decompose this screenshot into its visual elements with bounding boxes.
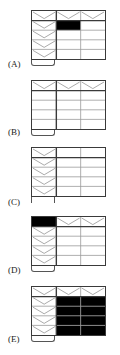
- chevron-icon: [33, 149, 55, 156]
- grid: [31, 286, 106, 336]
- grid-drawing: [32, 287, 105, 335]
- column-ticks: [31, 197, 55, 203]
- chevron-icon: [33, 298, 55, 305]
- option-e: (E): [0, 286, 120, 355]
- chevron-icon: [33, 22, 55, 29]
- grid: [31, 10, 106, 60]
- option-c: (C): [0, 147, 120, 217]
- chevron-icon: [33, 247, 55, 254]
- option-label: (B): [8, 127, 20, 137]
- chevron-icon: [57, 288, 79, 295]
- option-label: (E): [8, 334, 20, 344]
- chevron-icon: [33, 237, 55, 244]
- grid-drawing: [32, 148, 105, 196]
- chevron-icon: [57, 82, 79, 89]
- chevron-icon: [82, 288, 104, 295]
- chevron-icon: [33, 256, 55, 263]
- chevron-icon: [33, 187, 55, 194]
- option-b: (B): [0, 80, 120, 150]
- option-label: (C): [8, 197, 20, 207]
- grid: [31, 80, 106, 130]
- selected-cell: [56, 297, 80, 307]
- chevron-icon: [33, 228, 55, 235]
- selected-cell: [32, 217, 56, 227]
- option-label: (D): [8, 265, 21, 275]
- selected-cell: [56, 325, 80, 335]
- chevron-icon: [33, 317, 55, 324]
- grid-drawing: [32, 217, 105, 265]
- selected-cell: [56, 316, 80, 326]
- chevron-icon: [82, 82, 104, 89]
- chevron-icon: [33, 178, 55, 185]
- sheet-tab: [31, 130, 55, 136]
- sheet-tab: [31, 336, 55, 342]
- option-d: (D): [0, 216, 120, 286]
- grid-drawing: [32, 11, 105, 59]
- sheet-tab: [31, 266, 55, 272]
- chevron-icon: [33, 168, 55, 175]
- chevron-icon: [33, 12, 55, 19]
- selected-cell: [56, 306, 80, 316]
- selected-cell: [81, 316, 105, 326]
- chevron-icon: [57, 218, 79, 225]
- chevron-icon: [33, 326, 55, 333]
- chevron-icon: [33, 82, 55, 89]
- chevron-icon: [82, 218, 104, 225]
- chevron-icon: [33, 288, 55, 295]
- option-a: (A): [0, 10, 120, 80]
- sheet-tab: [31, 60, 55, 66]
- chevron-icon: [82, 12, 104, 19]
- grid-drawing: [32, 81, 105, 129]
- chevron-icon: [33, 159, 55, 166]
- selected-cell: [81, 297, 105, 307]
- chevron-icon: [33, 41, 55, 48]
- selected-cell: [81, 306, 105, 316]
- selected-cell: [81, 325, 105, 335]
- selected-cell: [56, 21, 80, 31]
- grid: [31, 147, 106, 197]
- option-label: (A): [8, 59, 21, 69]
- chevron-icon: [33, 31, 55, 38]
- chevron-icon: [33, 50, 55, 57]
- grid: [31, 216, 106, 266]
- chevron-icon: [33, 307, 55, 314]
- chevron-icon: [57, 12, 79, 19]
